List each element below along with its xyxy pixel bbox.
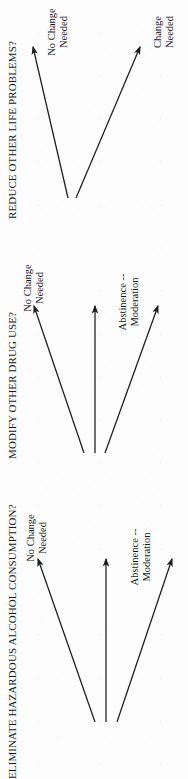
diagram-canvas: MODIFY OTHER DRUG USE? No Change Needed … — [0, 258, 188, 513]
leaf-label-abstinence-moderation: Abstinence -- Moderation — [117, 259, 140, 345]
diagram-canvas: ELIMINATE HAZARDOUS ALCOHOL CONSUMPTION?… — [0, 505, 188, 779]
document-page: REDUCE OTHER LIFE PROBLEMS? No Change Ne… — [0, 0, 188, 779]
branch-arrow-no-change-needed — [33, 47, 68, 198]
leaf-label-no-change-needed: No Change Needed — [25, 509, 48, 567]
leaf-label-change-needed: Change Needed — [152, 0, 175, 64]
diagram-reduce-other-life-problems: REDUCE OTHER LIFE PROBLEMS? No Change Ne… — [0, 0, 188, 260]
diagram-modify-other-drug-use: MODIFY OTHER DRUG USE? No Change Needed … — [0, 258, 188, 513]
diagram-canvas: REDUCE OTHER LIFE PROBLEMS? No Change Ne… — [0, 0, 188, 260]
leaf-label-abstinence-moderation: Abstinence -- Moderation — [129, 507, 152, 607]
branch-arrow-change-needed — [76, 47, 140, 198]
leaf-label-no-change-needed: No Change Needed — [46, 0, 69, 64]
branch-arrow-no-change-needed — [38, 559, 95, 722]
diagram-eliminate-hazardous-alcohol-consumption: ELIMINATE HAZARDOUS ALCOHOL CONSUMPTION?… — [0, 505, 188, 779]
branch-arrow-no-change-needed — [34, 306, 84, 453]
leaf-label-no-change-needed: No Change Needed — [22, 259, 45, 317]
